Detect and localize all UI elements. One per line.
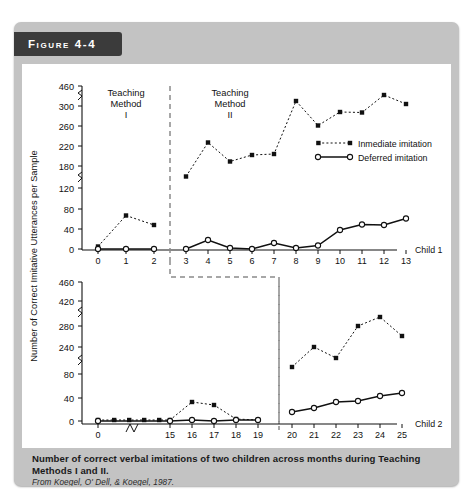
bottom-chart: 460 420 280 240 80 40 0 — [59, 278, 443, 441]
bottom-ytick-420: 420 — [59, 297, 74, 307]
top-xtick-11: 11 — [357, 256, 366, 266]
phase-divider-connector — [170, 260, 279, 424]
top-series-deferred-phase2 — [186, 219, 406, 250]
top-series-immediate — [98, 216, 154, 247]
bottom-xtick-21: 21 — [309, 430, 319, 440]
legend-marker-immediate-left — [316, 141, 320, 145]
bottom-markers-immediate — [96, 315, 404, 422]
legend: Inmediate imitation Deferred imitation — [315, 139, 432, 163]
top-y-axis-break-upper — [78, 90, 82, 100]
bottom-xtick-18: 18 — [231, 430, 241, 440]
legend-marker-immediate-right — [348, 141, 352, 145]
top-xtick-13: 13 — [401, 256, 411, 266]
bottom-ytick-240: 240 — [59, 343, 74, 353]
top-xtick-3: 3 — [183, 256, 188, 266]
top-xtick-10: 10 — [335, 256, 345, 266]
top-ytick-80: 80 — [64, 205, 74, 215]
bottom-series-immediate-phase2 — [292, 317, 402, 367]
svg-text:Teaching: Teaching — [107, 88, 144, 98]
top-ytick-120: 120 — [59, 184, 74, 194]
legend-label-immediate: Inmediate imitation — [358, 139, 432, 149]
top-y-ticks: 460 300 260 220 180 120 80 40 — [59, 82, 82, 255]
top-xtick-8: 8 — [293, 256, 298, 266]
svg-text:Method: Method — [214, 99, 245, 109]
bottom-ytick-280: 280 — [59, 322, 74, 332]
bottom-ytick-460: 460 — [59, 278, 74, 288]
legend-marker-deferred-left — [315, 154, 320, 159]
caption-main-text: Number of correct verbal imitations of t… — [32, 453, 441, 476]
svg-text:I: I — [125, 110, 128, 120]
figure-number-tab: Figure 4-4 — [14, 32, 122, 56]
top-xtick-7: 7 — [271, 256, 276, 266]
bottom-xtick-16: 16 — [187, 430, 197, 440]
top-panel-label: Child 1 — [415, 245, 442, 255]
top-xtick-12: 12 — [379, 256, 389, 266]
legend-marker-deferred-right — [347, 154, 352, 159]
legend-label-deferred: Deferred imitation — [358, 153, 428, 163]
top-ytick-220: 220 — [59, 142, 74, 152]
top-xtick-4: 4 — [205, 256, 210, 266]
top-phase2-label: Teaching Method II — [211, 88, 248, 120]
top-ytick-260: 260 — [59, 122, 74, 132]
svg-text:Teaching: Teaching — [211, 88, 248, 98]
top-ytick-40: 40 — [64, 225, 74, 235]
caption-source-text: From Koegel, O' Dell, & Koegel, 1987. — [32, 478, 441, 486]
top-xtick-2: 2 — [151, 256, 156, 266]
bottom-xtick-25: 25 — [397, 430, 407, 440]
bottom-xtick-23: 23 — [353, 430, 363, 440]
bottom-y-axis-break-upper — [78, 307, 82, 317]
bottom-panel-label: Child 2 — [415, 419, 442, 429]
figure-card: Figure 4-4 Number of Correct Imitative U… — [14, 22, 459, 486]
bottom-xtick-17: 17 — [209, 430, 219, 440]
bottom-x-ticks: 0 15 16 17 18 19 20 21 22 23 24 25 — [95, 424, 407, 440]
bottom-xtick-22: 22 — [331, 430, 341, 440]
bottom-xtick-24: 24 — [375, 430, 385, 440]
top-xtick-9: 9 — [315, 256, 320, 266]
bottom-markers-deferred — [95, 390, 404, 423]
bottom-xtick-15: 15 — [165, 430, 175, 440]
top-ytick-0: 0 — [69, 245, 74, 255]
bottom-y-axis-break-lower — [78, 355, 82, 365]
svg-text:Method: Method — [110, 99, 141, 109]
top-phase1-label: Teaching Method I — [107, 88, 144, 120]
top-xtick-0: 0 — [95, 256, 100, 266]
top-xtick-1: 1 — [123, 256, 128, 266]
top-ytick-460: 460 — [59, 82, 74, 92]
top-ytick-180: 180 — [59, 162, 74, 172]
figure-caption: Number of correct verbal imitations of t… — [22, 450, 451, 482]
top-ytick-300: 300 — [59, 102, 74, 112]
bottom-x-axis-break — [126, 424, 138, 432]
bottom-series-deferred-phase2 — [292, 393, 402, 412]
top-xtick-6: 6 — [249, 256, 254, 266]
top-xtick-5: 5 — [227, 256, 232, 266]
bottom-xtick-19: 19 — [253, 430, 263, 440]
bottom-xtick-20: 20 — [287, 430, 297, 440]
top-x-ticks: 0 1 2 3 4 5 6 7 8 9 10 11 12 13 — [95, 250, 411, 266]
figure-number-label: Figure 4-4 — [14, 38, 96, 50]
bottom-xtick-0: 0 — [95, 430, 100, 440]
y-axis-label: Number of Correct Imitative Utterances p… — [29, 150, 39, 361]
plot-panel: Number of Correct Imitative Utterances p… — [22, 64, 451, 448]
bottom-ytick-40: 40 — [64, 394, 74, 404]
bottom-ytick-80: 80 — [64, 370, 74, 380]
bottom-y-ticks: 460 420 280 240 80 40 0 — [59, 278, 82, 427]
svg-text:II: II — [227, 110, 232, 120]
top-y-axis-break-lower — [78, 172, 82, 182]
top-chart: 460 300 260 220 180 120 80 40 — [59, 82, 443, 267]
figure-svg: Number of Correct Imitative Utterances p… — [22, 64, 451, 448]
bottom-ytick-0: 0 — [69, 417, 74, 427]
